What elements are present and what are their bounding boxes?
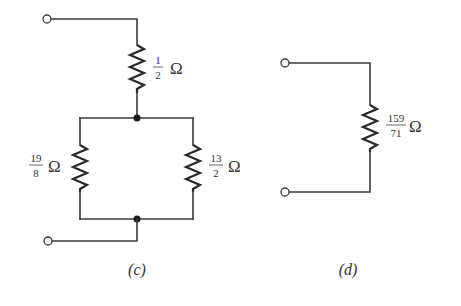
circuit-c: 1 2 Ω 19 8 Ω 13 2 Ω — [29, 15, 241, 279]
wire-top-input — [51, 19, 137, 45]
wire-bottom-output — [52, 219, 137, 241]
circuit-d: 159 71 Ω (d) — [281, 59, 422, 279]
numerator: 159 — [388, 112, 405, 124]
numerator: 13 — [211, 152, 223, 164]
circuit-diagrams: 1 2 Ω 19 8 Ω 13 2 Ω — [0, 0, 461, 306]
junction-top — [134, 115, 141, 122]
terminal-top-c — [43, 15, 51, 23]
resistor-right — [186, 145, 200, 192]
numerator: 19 — [31, 152, 43, 164]
resistor-equivalent — [363, 105, 377, 152]
denominator: 2 — [213, 167, 219, 179]
caption-c: (c) — [128, 261, 146, 279]
wire-bottom-output-d — [289, 152, 370, 192]
denominator: 8 — [33, 167, 39, 179]
numerator: 1 — [155, 54, 161, 66]
label-resistor-top: 1 2 Ω — [153, 54, 183, 81]
ohm-symbol: Ω — [228, 157, 241, 176]
terminal-top-d — [281, 59, 289, 67]
denominator: 2 — [155, 69, 161, 81]
resistor-left — [73, 145, 87, 192]
ohm-symbol: Ω — [409, 117, 422, 136]
terminal-bottom-d — [281, 188, 289, 196]
ohm-symbol: Ω — [48, 157, 61, 176]
caption-d: (d) — [339, 261, 358, 279]
ohm-symbol: Ω — [170, 59, 183, 78]
label-resistor-right: 13 2 Ω — [209, 152, 241, 179]
wire-top-input-d — [289, 63, 370, 105]
label-resistor-left: 19 8 Ω — [29, 152, 61, 179]
terminal-bottom-c — [44, 237, 52, 245]
denominator: 71 — [391, 127, 402, 139]
label-resistor-equivalent: 159 71 Ω — [386, 112, 422, 139]
resistor-top — [130, 45, 144, 93]
